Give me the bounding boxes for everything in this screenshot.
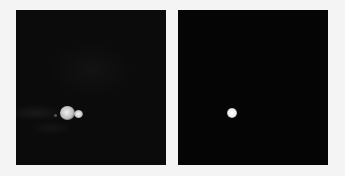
background-noise: [16, 10, 166, 165]
left-image-panel: [16, 10, 166, 165]
dim-speck: [54, 114, 57, 117]
bright-blob-small: [74, 110, 83, 118]
right-image-panel: [178, 10, 328, 165]
bright-blob-large: [60, 106, 75, 120]
bright-dot: [227, 108, 237, 118]
